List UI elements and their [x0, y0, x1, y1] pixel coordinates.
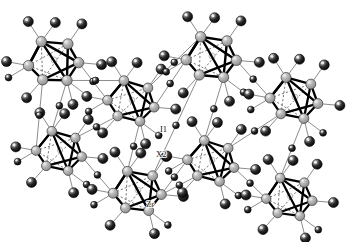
zr-atom [273, 208, 283, 218]
halide-atom [91, 201, 98, 208]
halide-atom [83, 115, 93, 125]
zr-atom [299, 178, 309, 188]
zr-atom [215, 177, 225, 187]
halide-atom [319, 60, 329, 70]
halide-atom [77, 19, 87, 29]
zr-atom [194, 70, 204, 80]
halide-atom [149, 229, 159, 239]
zr-atom [63, 39, 73, 49]
halide-atom [165, 168, 172, 175]
halide-atom [159, 51, 169, 61]
halide-atom [244, 206, 251, 213]
halide-atom [187, 117, 197, 127]
halide-atom [14, 158, 21, 165]
halide-atom [82, 91, 92, 101]
halide-atom-bridging [210, 105, 217, 112]
halide-atom [320, 129, 327, 136]
zr-atom [276, 109, 286, 119]
halide-atom [69, 188, 79, 198]
halide-atom-bridging [247, 180, 254, 187]
atom-label-zr: Zr [146, 199, 154, 209]
zr-atom [23, 60, 33, 70]
halide-atom [212, 118, 222, 128]
zr-atom [143, 83, 153, 93]
halide-atom [183, 12, 193, 22]
halide-atom [288, 155, 298, 165]
zr-atom [36, 36, 46, 46]
halide-atom [236, 124, 246, 134]
zr-atom [261, 194, 271, 204]
zr-atom [122, 166, 132, 176]
zr-atom [295, 211, 305, 221]
halide-atom [132, 58, 142, 68]
zr-atom [199, 136, 209, 146]
halide-atom-bridging [94, 172, 101, 179]
halide-atom [178, 88, 188, 98]
zr-atom [71, 133, 81, 143]
zr-atom [307, 196, 317, 206]
halide-atom-bridging [176, 182, 183, 189]
halide-atom-bridging [171, 174, 178, 181]
halide-atom [295, 54, 305, 64]
zr-atom [193, 171, 203, 181]
zr-atom [41, 161, 51, 171]
zr-atom [108, 188, 118, 198]
halide-atom-bridging [251, 128, 258, 135]
halide-atom [247, 106, 254, 113]
zr-atom [77, 152, 87, 162]
halide-atom [315, 226, 322, 233]
zr-atom [135, 116, 145, 126]
halide-atom [244, 89, 254, 99]
halide-atom [27, 177, 37, 187]
zr-atom [148, 171, 158, 181]
halide-atom [5, 74, 12, 81]
halide-atom [261, 126, 271, 136]
atom-label-i1: I1 [160, 124, 167, 134]
zr-atom [229, 163, 239, 173]
halide-atom [105, 220, 115, 230]
halide-atom [263, 155, 273, 165]
halide-atom [85, 108, 92, 115]
halide-atom [328, 198, 338, 208]
atom-label-x2: X2 [156, 149, 166, 159]
halide-atom-bridging [171, 59, 178, 66]
halide-atom-bridging [167, 80, 174, 87]
halide-atom [87, 184, 97, 194]
halide-atom [241, 190, 251, 200]
zr-atom [275, 173, 285, 183]
halide-atom-bridging [56, 102, 63, 109]
halide-atom-bridging [289, 145, 296, 152]
zr-atom [120, 203, 130, 213]
halide-atom [210, 13, 220, 23]
halide-atom [60, 109, 70, 119]
halide-atom [141, 139, 151, 149]
zr-atom [103, 95, 113, 105]
zr-atom [119, 76, 129, 86]
zr-atom [37, 75, 47, 85]
zr-atom [156, 190, 166, 200]
halide-atom [220, 199, 230, 209]
halide-atom-bridging [93, 124, 100, 131]
zr-atom [183, 155, 193, 165]
halide-atom [225, 96, 235, 106]
halide-atom [312, 159, 322, 169]
zr-atom [299, 113, 309, 123]
halide-atom [98, 154, 108, 164]
halide-atom [136, 148, 146, 158]
halide-atom [171, 104, 181, 114]
zr-atom [265, 93, 275, 103]
halide-atom [305, 136, 315, 146]
halide-atom [300, 233, 310, 242]
zr-atom [31, 146, 41, 156]
halide-atom [258, 225, 268, 235]
zr-atom [63, 166, 73, 176]
zr-atom [222, 36, 232, 46]
halide-atom [163, 68, 170, 75]
halide-atom [68, 99, 78, 109]
zr-atom [218, 72, 228, 82]
halide-atom [110, 147, 120, 157]
halide-atom-bridging [250, 76, 257, 83]
zr-atom [149, 102, 159, 112]
halide-atom [23, 17, 33, 27]
halide-atom [2, 57, 12, 67]
